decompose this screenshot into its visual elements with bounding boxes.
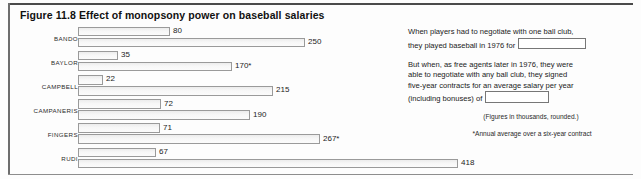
paragraph-one-line-one: When players had to negotiate with one b… <box>408 27 573 36</box>
bar-value-rudi-before: 67 <box>159 147 168 156</box>
row-bars: 72 190 <box>78 99 398 123</box>
row-bars: 22 215 <box>78 74 398 98</box>
paragraph-two-line-four: (including bonuses) of <box>408 94 482 103</box>
bar-rudi-after <box>78 159 458 169</box>
bar-baylor-after <box>78 62 232 72</box>
bottom-rule <box>8 174 633 175</box>
asterisk-footnote: *Annual average over a six-year contract <box>426 130 638 137</box>
chart-row: CAMPBELL 22 215 <box>18 74 398 98</box>
bar-value-campbell-after: 215 <box>276 85 289 94</box>
chart-row: BANDO 80 250 <box>18 26 398 50</box>
bar-bando-before <box>78 27 170 37</box>
row-label-rudi: RUDI <box>18 155 78 162</box>
bar-value-fingers-before: 71 <box>163 123 172 132</box>
row-bars: 67 418 <box>78 147 398 171</box>
bar-value-fingers-after: 267* <box>323 134 339 143</box>
figure-title: Figure 11.8 Effect of monopsony power on… <box>20 9 325 21</box>
bar-campbell-before <box>78 75 103 85</box>
bar-campbell-after <box>78 86 273 96</box>
bar-value-campaneris-after: 190 <box>253 110 266 119</box>
chart-row: FINGERS 71 267* <box>18 123 398 147</box>
paragraph-two: But when, as free agents later in 1976, … <box>408 60 634 105</box>
row-bars: 35 170* <box>78 50 398 74</box>
bar-value-rudi-after: 418 <box>461 158 474 167</box>
bar-value-baylor-before: 35 <box>121 50 130 59</box>
bar-value-campaneris-before: 72 <box>164 99 173 108</box>
top-rule <box>8 3 633 5</box>
bar-fingers-before <box>78 123 160 133</box>
answer-blank-one[interactable] <box>518 38 586 50</box>
chart-row: CAMPANERIS 72 190 <box>18 99 398 123</box>
bar-bando-after <box>78 38 305 48</box>
left-rule <box>8 3 10 175</box>
bar-value-bando-after: 250 <box>308 37 321 46</box>
row-label-campbell: CAMPBELL <box>18 83 78 90</box>
explanation-panel: When players had to negotiate with one b… <box>408 27 634 114</box>
bar-value-campbell-before: 22 <box>106 74 115 83</box>
row-bars: 80 250 <box>78 26 398 50</box>
row-label-campaneris: CAMPANERIS <box>18 107 78 114</box>
row-label-baylor: BAYLOR <box>18 59 78 66</box>
chart-row: RUDI 67 418 <box>18 147 398 171</box>
bar-chart: BANDO 80 250 BAYLOR 35 170* CAMPBELL 22 <box>18 26 398 172</box>
paragraph-two-line-two: able to negotiate with any ball club, th… <box>408 70 567 79</box>
row-bars: 71 267* <box>78 123 398 147</box>
figure-container: Figure 11.8 Effect of monopsony power on… <box>0 0 641 179</box>
bar-fingers-after <box>78 134 320 144</box>
bar-campaneris-after <box>78 110 250 120</box>
answer-blank-two[interactable] <box>485 91 549 103</box>
bar-campaneris-before <box>78 99 161 109</box>
figures-note: (Figures in thousands, rounded.) <box>426 113 636 120</box>
bar-value-baylor-after: 170* <box>235 61 251 70</box>
row-label-bando: BANDO <box>18 35 78 42</box>
row-label-fingers: FINGERS <box>18 131 78 138</box>
chart-row: BAYLOR 35 170* <box>18 50 398 74</box>
paragraph-one-line-two: they played baseball in 1976 for <box>408 40 515 49</box>
bar-rudi-before <box>78 148 156 158</box>
bar-value-bando-before: 80 <box>173 26 182 35</box>
paragraph-two-line-three: five-year contracts for an average salar… <box>408 81 573 90</box>
paragraph-two-line-one: But when, as free agents later in 1976, … <box>408 60 573 69</box>
paragraph-one: When players had to negotiate with one b… <box>408 27 634 51</box>
bar-baylor-before <box>78 51 118 61</box>
